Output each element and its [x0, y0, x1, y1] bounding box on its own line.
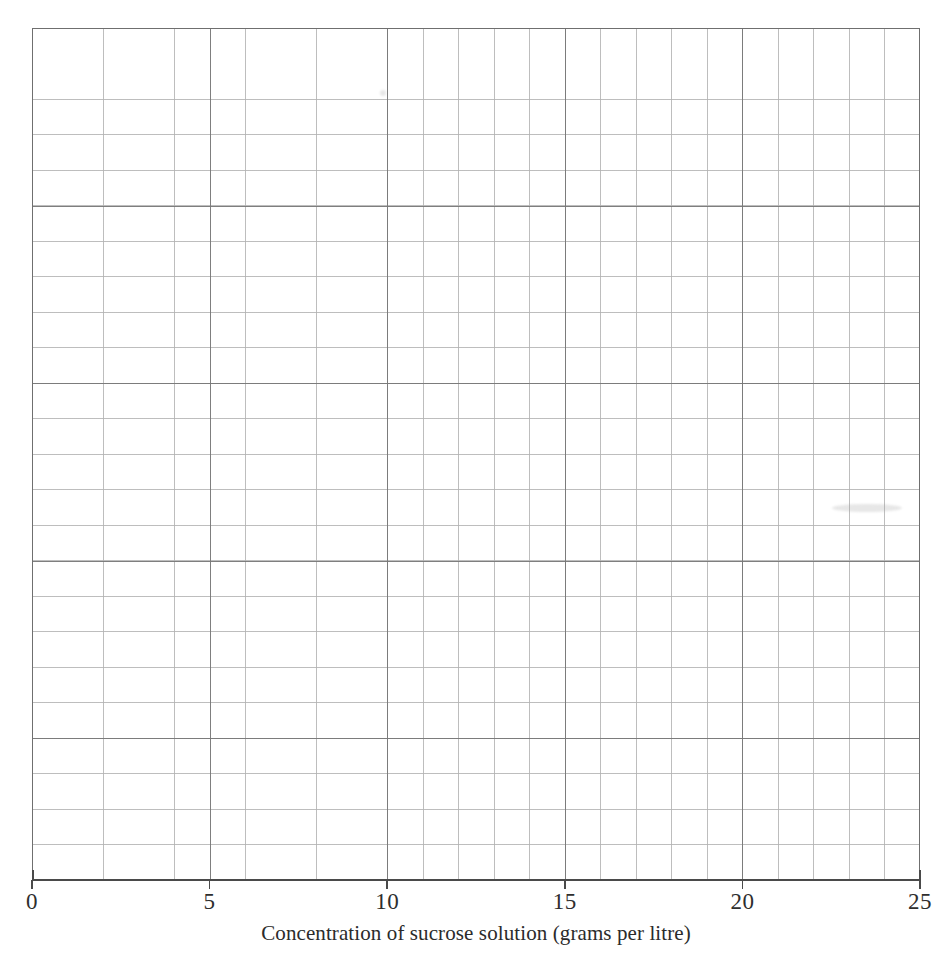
plot-area[interactable]: [32, 28, 920, 880]
x-tick-label-15: 15: [535, 888, 595, 916]
x-axis-left-cap: [32, 870, 34, 880]
x-tick-label-10: 10: [357, 888, 417, 916]
x-tick-label-0: 0: [2, 888, 62, 916]
x-axis-right-cap: [919, 870, 921, 880]
major-gridlines: [32, 28, 920, 880]
x-tick-label-25: 25: [890, 888, 950, 916]
x-tick-label-5: 5: [180, 888, 240, 916]
graph-figure: 0510152025 Concentration of sucrose solu…: [0, 0, 952, 962]
x-axis-title: Concentration of sucrose solution (grams…: [0, 920, 952, 946]
x-axis-line: [32, 879, 921, 881]
x-tick-label-20: 20: [712, 888, 772, 916]
